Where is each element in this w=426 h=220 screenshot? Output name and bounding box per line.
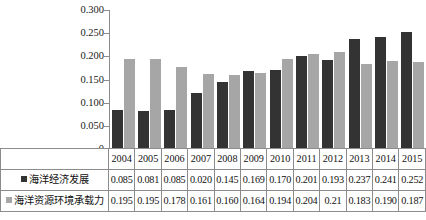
bar-series-0 <box>401 32 412 149</box>
bar-group <box>347 10 373 149</box>
table-year-header: 2008 <box>214 149 240 170</box>
chart-plot-region: 0.3000.2500.2000.1500.1000.0500 <box>0 0 426 155</box>
bar-series-1 <box>334 52 345 149</box>
bar-series-0 <box>164 110 175 149</box>
bar-group <box>268 10 294 149</box>
table-year-header: 2005 <box>135 149 161 170</box>
y-axis-tick-label: 0.150 <box>80 75 104 85</box>
bar-series-1 <box>124 59 135 149</box>
table-year-header: 2015 <box>399 149 426 170</box>
table-value-cell: 0.164 <box>241 191 267 212</box>
bar-series-1 <box>413 62 424 149</box>
legend-swatch-icon-series-0 <box>21 176 27 182</box>
bar-series-1 <box>176 67 187 149</box>
table-value-cell: 0.195 <box>135 191 161 212</box>
y-axis-tick-label: 0.200 <box>80 51 104 61</box>
table-value-cell: 0.190 <box>373 191 399 212</box>
table-value-cell: 0.204 <box>293 191 319 212</box>
bar-group <box>400 10 426 149</box>
y-axis-tick-mark <box>104 10 109 11</box>
table-value-cell: 0.161 <box>188 191 214 212</box>
y-axis-tick-label: 0.050 <box>80 121 104 131</box>
bar-group <box>294 10 320 149</box>
bar-series-1 <box>282 59 293 149</box>
bar-series-1 <box>203 74 214 149</box>
bar-series-0 <box>138 111 149 149</box>
table-value-cell: 0.195 <box>109 191 135 212</box>
bar-group <box>110 10 136 149</box>
bar-groups <box>110 10 426 149</box>
table-body: 2004200520062007200820092010201120122013… <box>1 149 426 212</box>
bar-series-1 <box>150 59 161 149</box>
table-value-cell: 0.237 <box>346 170 372 191</box>
table-year-header: 2004 <box>109 149 135 170</box>
table-value-cell: 0.252 <box>399 170 426 191</box>
bar-group <box>321 10 347 149</box>
y-axis-tick-mark <box>104 56 109 57</box>
table-year-header: 2006 <box>161 149 187 170</box>
table-value-cell: 0.160 <box>214 191 240 212</box>
table-value-cell: 0.21 <box>320 191 346 212</box>
bar-series-0 <box>191 93 202 149</box>
legend-item-series-0: 海洋经济发展 <box>1 170 109 191</box>
bar-series-1 <box>229 75 240 149</box>
table-value-cell: 0.170 <box>267 170 293 191</box>
bar-series-0 <box>349 39 360 149</box>
y-axis-tick-label: 0.250 <box>80 28 104 38</box>
table-year-header: 2013 <box>346 149 372 170</box>
chart-figure: 0.3000.2500.2000.1500.1000.0500 20042005… <box>0 0 426 220</box>
y-axis-tick-mark <box>104 80 109 81</box>
bar-series-0 <box>296 56 307 149</box>
bar-group <box>215 10 241 149</box>
bar-group <box>163 10 189 149</box>
table-value-cell: 0.085 <box>109 170 135 191</box>
bar-series-0 <box>270 70 281 149</box>
bar-group <box>242 10 268 149</box>
y-axis-tick-mark <box>104 103 109 104</box>
table-row-years: 2004200520062007200820092010201120122013… <box>1 149 426 170</box>
table-year-header: 2011 <box>293 149 319 170</box>
bar-series-1 <box>255 73 266 149</box>
table-value-cell: 0.145 <box>214 170 240 191</box>
table-value-cell: 0.193 <box>320 170 346 191</box>
chart-data-table: 2004200520062007200820092010201120122013… <box>0 148 426 212</box>
bar-series-0 <box>322 60 333 149</box>
y-axis-tick-label: 0.100 <box>80 98 104 108</box>
bar-series-0 <box>243 71 254 149</box>
table-value-cell: 0.085 <box>161 170 187 191</box>
table-corner-cell <box>1 149 109 170</box>
table-value-cell: 0.081 <box>135 170 161 191</box>
bar-series-1 <box>387 61 398 149</box>
bar-group <box>136 10 162 149</box>
table-year-header: 2012 <box>320 149 346 170</box>
table-value-cell: 0.020 <box>188 170 214 191</box>
y-axis-tick-label: 0.300 <box>80 5 104 15</box>
bar-series-1 <box>308 54 319 149</box>
table-value-cell: 0.178 <box>161 191 187 212</box>
bars-plot-area <box>110 10 426 149</box>
table-value-cell: 0.183 <box>346 191 372 212</box>
table-value-cell: 0.201 <box>293 170 319 191</box>
bar-series-0 <box>375 37 386 149</box>
legend-swatch-icon-series-1 <box>6 197 12 203</box>
bar-group <box>373 10 399 149</box>
table-row-series-0: 海洋经济发展 0.0850.0810.0850.0200.1450.1690.1… <box>1 170 426 191</box>
bar-series-1 <box>361 64 372 149</box>
table-value-cell: 0.241 <box>373 170 399 191</box>
y-axis-tick-labels: 0.3000.2500.2000.1500.1000.0500 <box>56 0 108 155</box>
bar-series-0 <box>217 82 228 149</box>
y-axis-tick-mark <box>104 33 109 34</box>
legend-item-series-1: 海洋资源环境承载力 <box>1 191 109 212</box>
bar-group <box>189 10 215 149</box>
legend-label-series-1: 海洋资源环境承载力 <box>14 195 104 206</box>
table-value-cell: 0.187 <box>399 191 426 212</box>
table-year-header: 2010 <box>267 149 293 170</box>
table-year-header: 2009 <box>241 149 267 170</box>
table-year-header: 2014 <box>373 149 399 170</box>
table-year-header: 2007 <box>188 149 214 170</box>
table-value-cell: 0.194 <box>267 191 293 212</box>
table-row-series-1: 海洋资源环境承载力 0.1950.1950.1780.1610.1600.164… <box>1 191 426 212</box>
y-axis-tick-mark <box>104 126 109 127</box>
table-value-cell: 0.169 <box>241 170 267 191</box>
bar-series-0 <box>112 110 123 149</box>
